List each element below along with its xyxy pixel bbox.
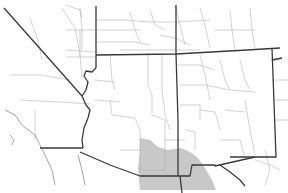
range-map (0, 0, 288, 193)
range-area (138, 138, 216, 190)
map-canvas (0, 0, 288, 193)
